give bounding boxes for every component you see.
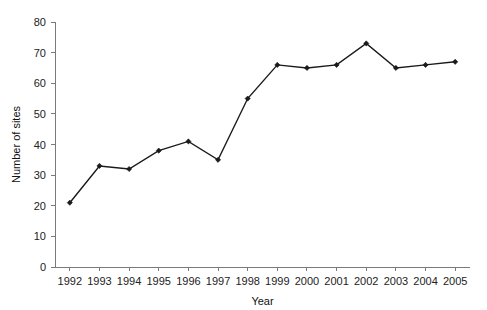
y-axis-title: Number of sites (10, 105, 22, 183)
x-tick-label: 1994 (117, 275, 141, 287)
y-tick-label: 30 (34, 169, 46, 181)
y-tick-label: 40 (34, 139, 46, 151)
x-tick-label: 1996 (176, 275, 200, 287)
x-tick-label: 1992 (58, 275, 82, 287)
x-axis-title: Year (251, 295, 274, 307)
data-point-marker (423, 62, 428, 67)
x-tick-label: 2004 (413, 275, 437, 287)
y-tick-label: 20 (34, 200, 46, 212)
y-tick-label: 60 (34, 77, 46, 89)
x-tick-label: 2003 (384, 275, 408, 287)
y-tick-label: 80 (34, 16, 46, 28)
y-tick-label: 10 (34, 230, 46, 242)
x-tick-label: 2001 (324, 275, 348, 287)
data-point-marker (453, 59, 458, 64)
x-tick-label: 2002 (354, 275, 378, 287)
x-tick-label: 1997 (206, 275, 230, 287)
chart-plot-area: 0102030405060708019921993199419951996199… (0, 0, 487, 310)
x-tick-label: 2000 (295, 275, 319, 287)
x-tick-label: 1993 (87, 275, 111, 287)
y-tick-label: 70 (34, 47, 46, 59)
y-tick-label: 0 (40, 261, 46, 273)
x-tick-label: 1999 (265, 275, 289, 287)
x-tick-label: 1998 (235, 275, 259, 287)
x-tick-label: 1995 (147, 275, 171, 287)
data-point-marker (304, 65, 309, 70)
line-chart: 0102030405060708019921993199419951996199… (0, 0, 487, 310)
x-tick-label: 2005 (443, 275, 467, 287)
y-tick-label: 50 (34, 108, 46, 120)
